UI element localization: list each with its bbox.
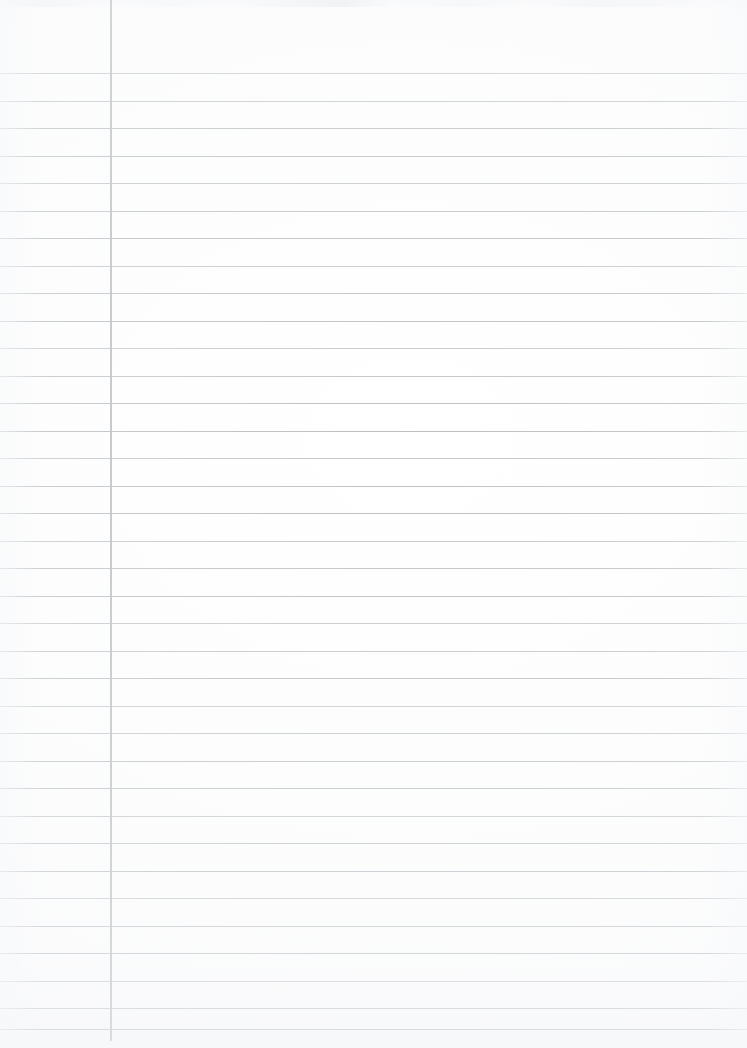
main-writing-area: [112, 73, 747, 1029]
header-area: [0, 0, 747, 73]
scanned-page: [0, 0, 747, 1048]
left-margin-column: [0, 73, 110, 1029]
footer-area: [0, 1029, 747, 1048]
